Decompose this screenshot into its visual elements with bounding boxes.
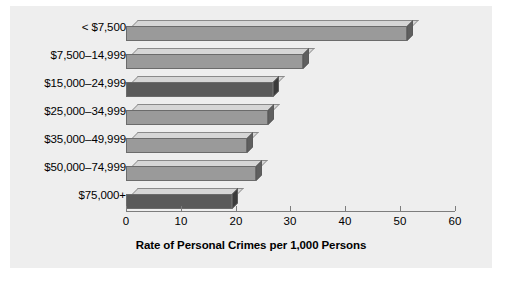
x-axis-tick xyxy=(181,206,182,211)
bar-category-label: $50,000–74,999 xyxy=(14,154,126,180)
bar-row: $50,000–74,999 xyxy=(10,154,492,180)
bar-side-face xyxy=(256,160,262,181)
bar-side-face xyxy=(247,132,253,153)
bar-category-label: $15,000–24,999 xyxy=(14,70,126,96)
bar-row: $15,000–24,999 xyxy=(10,70,492,96)
x-axis-tick xyxy=(290,206,291,211)
bar-front-face xyxy=(126,54,303,69)
x-axis-tick xyxy=(126,206,127,211)
bar-side-face xyxy=(232,188,238,209)
x-axis-tick-label: 40 xyxy=(330,215,360,227)
bar-front-face xyxy=(126,138,247,153)
x-axis-tick-label: 0 xyxy=(111,215,141,227)
bar-0[interactable] xyxy=(126,20,407,35)
x-axis-tick xyxy=(236,206,237,211)
bar-front-face xyxy=(126,194,232,209)
x-axis-tick xyxy=(455,206,456,211)
x-axis-tick-label: 30 xyxy=(275,215,305,227)
x-axis-tick-label: 20 xyxy=(221,215,251,227)
x-axis-title: Rate of Personal Crimes per 1,000 Person… xyxy=(10,239,492,251)
bar-side-face xyxy=(273,76,279,97)
bar-category-label: $25,000–34,999 xyxy=(14,98,126,124)
bar-row: $7,500–14,999 xyxy=(10,42,492,68)
x-axis-line xyxy=(126,211,455,212)
bar-3[interactable] xyxy=(126,104,268,119)
bar-front-face xyxy=(126,166,256,181)
chart-figure: < $7,500 $7,500–14,999 $15,000–24,999 xyxy=(10,6,492,268)
bar-4[interactable] xyxy=(126,132,247,147)
bar-front-face xyxy=(126,110,268,125)
x-axis-tick xyxy=(400,206,401,211)
bar-5[interactable] xyxy=(126,160,256,175)
bar-side-face xyxy=(303,48,309,69)
chart-plot-area: < $7,500 $7,500–14,999 $15,000–24,999 xyxy=(10,6,492,268)
bar-1[interactable] xyxy=(126,48,303,63)
bar-row: $35,000–49,999 xyxy=(10,126,492,152)
bar-row: < $7,500 xyxy=(10,14,492,40)
x-axis-tick-label: 10 xyxy=(166,215,196,227)
bar-category-label: $7,500–14,999 xyxy=(14,42,126,68)
bar-category-label: $75,000+ xyxy=(14,182,126,208)
bar-row: $25,000–34,999 xyxy=(10,98,492,124)
bar-category-label: $35,000–49,999 xyxy=(14,126,126,152)
x-axis-tick-label: 60 xyxy=(440,215,470,227)
bar-side-face xyxy=(268,104,274,125)
bar-side-face xyxy=(407,20,413,41)
bar-2[interactable] xyxy=(126,76,273,91)
bar-6[interactable] xyxy=(126,188,232,203)
bar-front-face xyxy=(126,82,273,97)
x-axis-tick xyxy=(345,206,346,211)
bar-row: $75,000+ xyxy=(10,182,492,208)
bar-category-label: < $7,500 xyxy=(14,14,126,40)
x-axis-tick-label: 50 xyxy=(385,215,415,227)
bar-front-face xyxy=(126,26,407,41)
